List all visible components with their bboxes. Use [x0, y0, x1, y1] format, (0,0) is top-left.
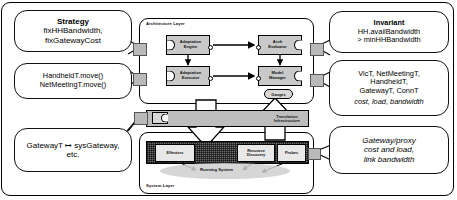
callout-types-and-properties: VicT, NetMeetingT, HandheldT, GatewayT, …	[329, 60, 449, 116]
callout-heading: Strategy	[57, 17, 89, 26]
callout-line: > minHHBandwidth	[357, 36, 420, 45]
callout-line: GatewayT, ConnT	[359, 87, 418, 96]
callout-system-properties: Gateway/proxy cost and load, link bandwi…	[329, 126, 449, 174]
callout-line: GatewayT ↦ sysGateway,	[27, 141, 120, 150]
diagram-canvas: Architecture Layer Adaptation Engine Arc…	[0, 0, 457, 200]
callout-type-mapping: GatewayT ↦ sysGateway, etc.	[14, 128, 132, 172]
callout-line: NetMeetingT.move()	[40, 81, 107, 90]
callout-line-italic: cost, load, bandwidth	[354, 98, 423, 107]
callout-line: etc.	[67, 150, 80, 159]
callout-operators: HandheldT.move() NetMeetingT.move()	[14, 63, 132, 99]
callout-line: link bandwidth	[364, 155, 415, 164]
callout-line: fixHHBandwidth,	[43, 26, 102, 35]
callout-invariant: Invariant HH.availBandwidth > minHHBandw…	[329, 11, 449, 53]
callout-line: Gateway/proxy	[362, 136, 415, 145]
callout-line: cost and load,	[364, 145, 414, 154]
callout-strategy: Strategy fixHHBandwidth, fixGatewayCost	[14, 10, 132, 52]
callout-line: fixGatewayCost	[45, 36, 101, 45]
